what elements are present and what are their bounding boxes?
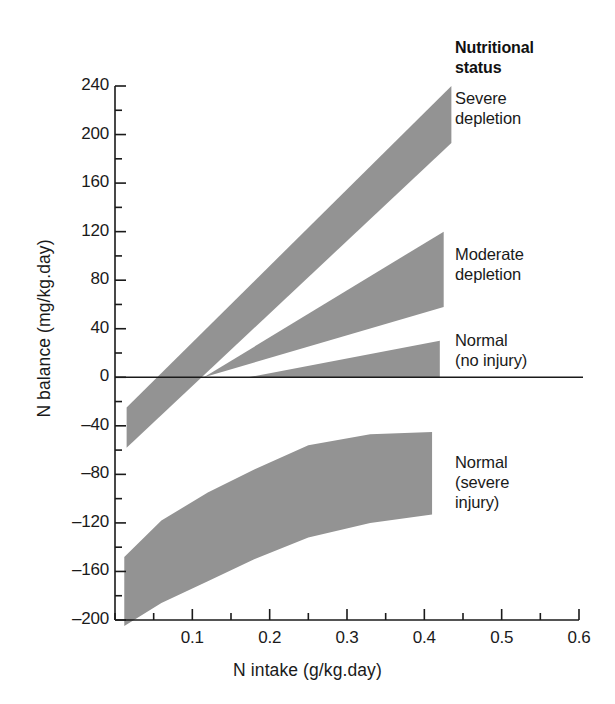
legend-item-severe-depletion: Severe depletion xyxy=(455,88,615,128)
y-tick-label: 200 xyxy=(45,124,109,144)
y-tick-label: 240 xyxy=(45,75,109,95)
y-tick-label: 40 xyxy=(45,318,109,338)
legend-item-line-2: (severe xyxy=(455,472,615,492)
chart-figure: 24020016012080400‒40‒80‒120‒160‒200 0.10… xyxy=(0,0,615,704)
x-axis-title: N intake (g/kg.day) xyxy=(0,660,615,681)
legend-title-line-2: status xyxy=(455,58,615,78)
x-tick-label: 0.4 xyxy=(394,628,454,648)
legend-item-line-1: Normal xyxy=(455,452,615,472)
x-tick-label: 0.3 xyxy=(317,628,377,648)
legend-title-block: Nutritional status xyxy=(455,38,615,77)
legend-item-line-2: depletion xyxy=(455,108,615,128)
y-tick-label: ‒120 xyxy=(45,512,109,532)
y-tick-label: 0 xyxy=(45,366,109,386)
y-tick-label: 120 xyxy=(45,221,109,241)
legend-item-normal-severe-injury: Normal (severe injury) xyxy=(455,452,615,512)
band-normal-severe-injury xyxy=(124,432,432,626)
y-tick-label: ‒40 xyxy=(45,415,109,435)
legend-item-line-2: depletion xyxy=(455,264,615,284)
legend-item-line-1: Moderate xyxy=(455,244,615,264)
legend-item-line-1: Normal xyxy=(455,330,615,350)
y-tick-label: ‒80 xyxy=(45,463,109,483)
y-tick-label: 160 xyxy=(45,172,109,192)
legend-title-line-1: Nutritional xyxy=(455,38,615,58)
y-tick-label: ‒160 xyxy=(45,560,109,580)
data-bands xyxy=(124,86,451,626)
legend-item-normal-no-injury: Normal (no injury) xyxy=(455,330,615,370)
legend-item-line-3: injury) xyxy=(455,492,615,512)
x-tick-label: 0.6 xyxy=(549,628,609,648)
y-tick-label: ‒200 xyxy=(45,609,109,629)
x-tick-label: 0.5 xyxy=(472,628,532,648)
y-tick-label: 80 xyxy=(45,269,109,289)
x-tick-label: 0.1 xyxy=(162,628,222,648)
x-tick-label: 0.2 xyxy=(240,628,300,648)
legend-item-moderate-depletion: Moderate depletion xyxy=(455,244,615,284)
legend-item-line-1: Severe xyxy=(455,88,615,108)
legend-item-line-2: (no injury) xyxy=(455,350,615,370)
y-axis-title: N balance (mg/kg.day) xyxy=(34,189,55,469)
